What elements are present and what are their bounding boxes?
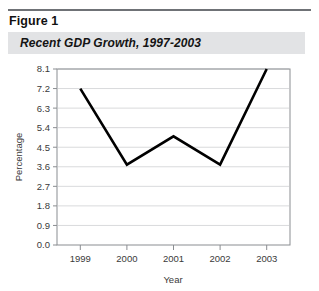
chart-area: 0.00.91.82.73.64.55.46.37.28.1 199920002… <box>0 58 319 291</box>
y-axis-tick-label: 8.1 <box>37 63 50 74</box>
y-axis-tick-label: 0.9 <box>37 220 50 231</box>
y-axis-tick-label: 1.8 <box>37 200 50 211</box>
x-axis-tick-labels: 19992000200120022003 <box>70 253 278 264</box>
y-axis-tick-labels: 0.00.91.82.73.64.55.46.37.28.1 <box>37 63 50 250</box>
x-axis-tick-label: 2001 <box>163 253 184 264</box>
chart-title: Recent GDP Growth, 1997-2003 <box>20 36 201 50</box>
data-series-line <box>80 69 266 165</box>
y-axis-ticks <box>53 69 57 245</box>
x-axis-ticks <box>80 245 266 250</box>
x-axis-tick-label: 2002 <box>210 253 231 264</box>
y-axis-tick-label: 0.0 <box>37 239 50 250</box>
line-chart: 0.00.91.82.73.64.55.46.37.28.1 199920002… <box>0 58 319 291</box>
figure-label: Figure 1 <box>9 14 58 28</box>
y-axis-tick-label: 3.6 <box>37 161 50 172</box>
y-axis-tick-label: 7.2 <box>37 83 50 94</box>
figure-container: Figure 1 Recent GDP Growth, 1997-2003 0.… <box>0 0 319 291</box>
x-axis-tick-label: 1999 <box>70 253 91 264</box>
y-axis-tick-label: 2.7 <box>37 181 50 192</box>
x-axis-tick-label: 2000 <box>116 253 137 264</box>
y-axis-tick-label: 5.4 <box>37 122 50 133</box>
header-divider <box>8 9 311 11</box>
x-axis-tick-label: 2003 <box>256 253 277 264</box>
y-axis-tick-label: 4.5 <box>37 142 50 153</box>
y-axis-tick-label: 6.3 <box>37 103 50 114</box>
y-axis-title: Percentage <box>13 133 24 182</box>
x-axis-title: Year <box>163 274 182 285</box>
